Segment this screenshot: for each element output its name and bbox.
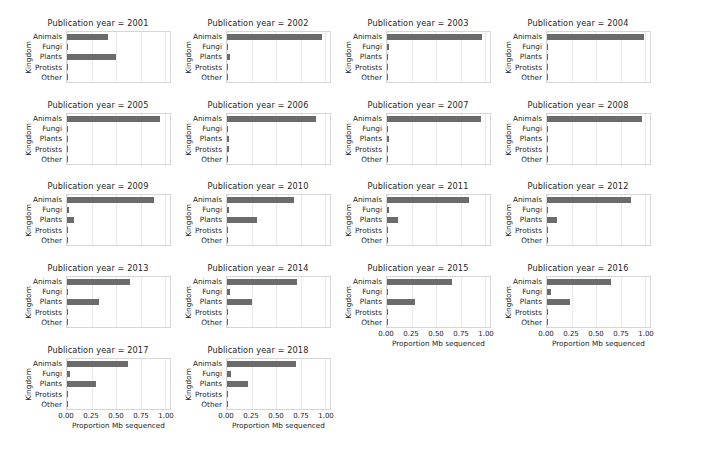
- bar: [227, 401, 228, 407]
- plot-area: [226, 31, 331, 83]
- facet-title: Publication year = 2017: [18, 345, 178, 355]
- bar: [67, 74, 68, 80]
- y-tick-label: Other: [521, 319, 542, 326]
- x-axis: 0.000.250.500.751.00Proportion Mb sequen…: [66, 411, 171, 433]
- bar-row-animals: [67, 359, 170, 369]
- bars-container: [387, 195, 490, 245]
- y-tick-label: Protists: [355, 146, 382, 153]
- x-axis-title: Proportion Mb sequenced: [532, 339, 665, 348]
- y-tick-label: Other: [41, 401, 62, 408]
- y-tick-label: Fungi: [202, 125, 222, 132]
- bar-row-fungi: [547, 205, 650, 215]
- bar-row-protists: [227, 389, 330, 399]
- bars-container: [227, 359, 330, 409]
- y-tick-labels: AnimalsFungiPlantsProtistsOther: [18, 276, 64, 328]
- plot-area: [386, 194, 491, 246]
- bar: [227, 227, 228, 233]
- y-tick-label: Other: [201, 401, 222, 408]
- bar: [547, 197, 631, 203]
- bar-row-protists: [227, 307, 330, 317]
- bar-row-animals: [227, 359, 330, 369]
- bar: [67, 237, 68, 243]
- plot-area: [226, 276, 331, 328]
- bar-row-other: [547, 154, 650, 164]
- y-tick-label: Fungi: [522, 206, 542, 213]
- y-tick-label: Animals: [513, 278, 542, 285]
- x-tick-label: 0.25: [399, 330, 423, 338]
- y-tick-label: Protists: [195, 227, 222, 234]
- x-tick-label: 0.50: [424, 330, 448, 338]
- facet-panel-2003: Publication year = 2003KingdomAnimalsFun…: [338, 18, 498, 98]
- bar: [227, 319, 228, 325]
- bar-row-plants: [67, 297, 170, 307]
- y-tick-label: Plants: [200, 135, 222, 142]
- bar: [227, 309, 228, 315]
- bar: [387, 227, 388, 233]
- y-tick-labels: AnimalsFungiPlantsProtistsOther: [18, 194, 64, 246]
- bar-row-other: [547, 235, 650, 245]
- bar-row-animals: [227, 32, 330, 42]
- bar-row-other: [67, 317, 170, 327]
- bar: [547, 309, 548, 315]
- facet-row: Publication year = 2009KingdomAnimalsFun…: [18, 181, 658, 261]
- y-tick-label: Other: [41, 237, 62, 244]
- y-tick-label: Animals: [193, 360, 222, 367]
- y-tick-label: Plants: [200, 53, 222, 60]
- y-tick-label: Plants: [360, 53, 382, 60]
- y-tick-labels: AnimalsFungiPlantsProtistsOther: [338, 276, 384, 328]
- bar-row-other: [227, 154, 330, 164]
- y-tick-label: Other: [521, 237, 542, 244]
- bar-row-plants: [547, 134, 650, 144]
- bar-row-fungi: [547, 124, 650, 134]
- facet-panel-2018: Publication year = 2018KingdomAnimalsFun…: [178, 345, 338, 425]
- y-tick-label: Protists: [35, 227, 62, 234]
- bar-row-other: [227, 235, 330, 245]
- y-tick-labels: AnimalsFungiPlantsProtistsOther: [338, 194, 384, 246]
- x-axis-title: Proportion Mb sequenced: [212, 421, 345, 430]
- bar-row-fungi: [67, 42, 170, 52]
- plot-area: [546, 113, 651, 165]
- y-tick-label: Plants: [200, 380, 222, 387]
- bar: [547, 136, 548, 142]
- y-tick-labels: AnimalsFungiPlantsProtistsOther: [338, 113, 384, 165]
- bar: [547, 64, 548, 70]
- bar-row-other: [387, 154, 490, 164]
- bar: [387, 319, 388, 325]
- facet-title: Publication year = 2013: [18, 263, 178, 273]
- bar: [387, 54, 388, 60]
- plot-area: [546, 276, 651, 328]
- bar-row-protists: [67, 389, 170, 399]
- y-tick-label: Animals: [33, 196, 62, 203]
- bar-row-animals: [227, 277, 330, 287]
- bar-row-protists: [547, 307, 650, 317]
- bar-row-fungi: [387, 42, 490, 52]
- bar-row-protists: [227, 62, 330, 72]
- bars-container: [67, 195, 170, 245]
- x-tick-label: 0.25: [79, 412, 103, 420]
- y-tick-label: Fungi: [202, 288, 222, 295]
- bar: [227, 289, 230, 295]
- bar: [67, 126, 68, 132]
- y-tick-labels: AnimalsFungiPlantsProtistsOther: [178, 194, 224, 246]
- bar: [67, 136, 68, 142]
- bar-row-fungi: [387, 287, 490, 297]
- y-tick-label: Plants: [40, 135, 62, 142]
- bar: [387, 289, 388, 295]
- bar: [227, 116, 316, 122]
- bar-row-protists: [67, 62, 170, 72]
- bars-container: [227, 277, 330, 327]
- bar-row-plants: [387, 52, 490, 62]
- bar-row-fungi: [227, 124, 330, 134]
- bars-container: [547, 277, 650, 327]
- x-tick-label: 0.75: [129, 412, 153, 420]
- facet-panel-2010: Publication year = 2010KingdomAnimalsFun…: [178, 181, 338, 261]
- bar-row-fungi: [387, 205, 490, 215]
- y-tick-labels: AnimalsFungiPlantsProtistsOther: [178, 358, 224, 410]
- bar: [387, 309, 388, 315]
- bar: [227, 217, 257, 223]
- bar: [67, 381, 96, 387]
- bar: [67, 391, 68, 397]
- y-tick-label: Fungi: [202, 206, 222, 213]
- facet-title: Publication year = 2007: [338, 100, 498, 110]
- y-tick-label: Plants: [360, 298, 382, 305]
